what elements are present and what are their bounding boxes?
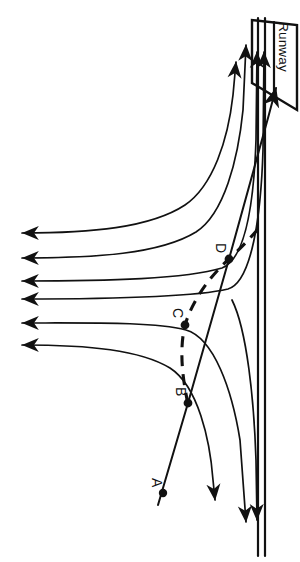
runway-label: Runway xyxy=(276,22,291,72)
vortex-track xyxy=(182,229,258,404)
label-point-a: A xyxy=(149,478,165,488)
streamline-2 xyxy=(22,45,246,258)
figure-root: A B C D Runway xyxy=(0,0,300,562)
runway-flow-diagram: A B C D Runway xyxy=(0,0,300,562)
label-point-d: D xyxy=(213,243,229,253)
label-point-c: C xyxy=(170,308,186,318)
point-labels: A B C D xyxy=(149,243,229,488)
runway-group xyxy=(252,18,297,556)
streamline-5 xyxy=(22,323,246,522)
streamline-1 xyxy=(22,62,236,233)
point-marker-a xyxy=(159,489,167,497)
point-marker-b xyxy=(184,399,193,408)
streamline-6 xyxy=(22,345,215,500)
point-marker-c xyxy=(181,321,190,330)
point-marker-d xyxy=(225,255,234,264)
streamline-group xyxy=(22,45,264,522)
vortex-track-group xyxy=(182,229,258,404)
label-point-b: B xyxy=(173,387,189,396)
streamline-7 xyxy=(232,300,257,520)
